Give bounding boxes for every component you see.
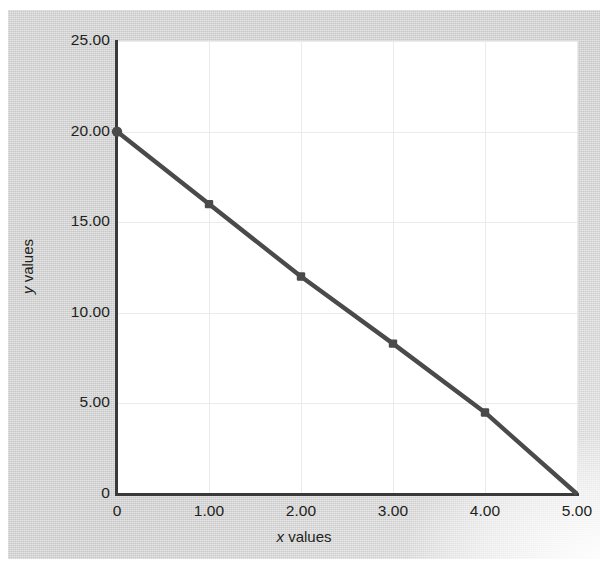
data-series-layer [0, 0, 608, 570]
y-axis-title-text: values [19, 239, 36, 287]
x-axis-title: x values [0, 528, 608, 545]
data-point-marker [481, 408, 489, 416]
data-point-marker [205, 200, 213, 208]
figure-chart: 05.0010.0015.0020.0025.00 01.002.003.004… [0, 0, 608, 570]
y-axis-title: y values [19, 217, 36, 317]
x-axis-title-symbol: x [276, 528, 284, 545]
x-axis-title-text: values [284, 528, 332, 545]
data-point-marker [389, 339, 397, 347]
y-axis-title-symbol: y [19, 287, 36, 295]
data-point-marker [297, 272, 305, 280]
data-point-marker [112, 126, 122, 136]
series-line [117, 132, 577, 494]
